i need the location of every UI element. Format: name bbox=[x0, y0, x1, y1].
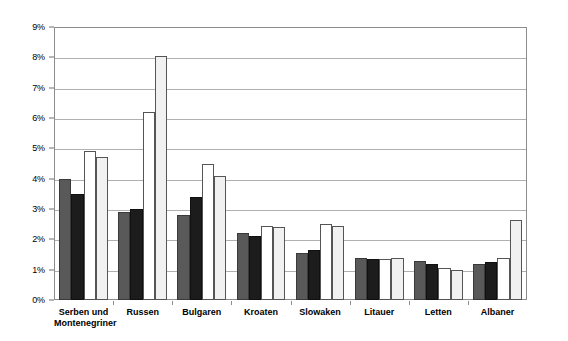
y-axis-tick-label: 4% bbox=[32, 174, 45, 184]
y-axis-tick-label: 9% bbox=[32, 22, 45, 32]
bar bbox=[118, 212, 130, 300]
x-axis-tick-mark bbox=[231, 301, 232, 305]
y-axis-tick-label: 1% bbox=[32, 265, 45, 275]
bar bbox=[414, 261, 426, 300]
y-axis-tick-label: 0% bbox=[32, 295, 45, 305]
x-axis-group-label: Bulgaren bbox=[172, 307, 231, 318]
bar bbox=[214, 176, 226, 300]
bar bbox=[130, 209, 142, 300]
x-axis-tick-mark bbox=[113, 301, 114, 305]
x-axis-tick-mark bbox=[468, 301, 469, 305]
bar bbox=[59, 179, 71, 300]
x-axis-tick-mark bbox=[291, 301, 292, 305]
y-axis-tick-label: 7% bbox=[32, 83, 45, 93]
x-axis-tick-mark bbox=[350, 301, 351, 305]
x-axis-group-label: Litauer bbox=[350, 307, 409, 318]
bar bbox=[332, 226, 344, 300]
bar bbox=[96, 157, 108, 300]
bar bbox=[143, 112, 155, 300]
bars-layer bbox=[54, 27, 527, 300]
bar bbox=[155, 56, 167, 300]
bar bbox=[510, 220, 522, 300]
bar bbox=[497, 258, 509, 300]
bar bbox=[71, 194, 83, 300]
bar bbox=[249, 236, 261, 300]
bar bbox=[190, 197, 202, 300]
y-axis: 0%1%2%3%4%5%6%7%8%9% bbox=[0, 0, 54, 341]
x-axis-group-label: Letten bbox=[409, 307, 468, 318]
x-axis-tick-mark bbox=[409, 301, 410, 305]
bar bbox=[451, 270, 463, 300]
y-axis-tick-label: 8% bbox=[32, 52, 45, 62]
x-axis-group-label: Slowaken bbox=[291, 307, 350, 318]
bar bbox=[367, 259, 379, 300]
x-axis-group-label: Serben und Montenegriner bbox=[54, 307, 113, 329]
bar-chart: 0%1%2%3%4%5%6%7%8%9% Serben und Monteneg… bbox=[0, 0, 568, 341]
bar bbox=[273, 227, 285, 300]
bar bbox=[355, 258, 367, 300]
bar bbox=[177, 215, 189, 300]
x-axis-tick-mark bbox=[172, 301, 173, 305]
bar bbox=[391, 258, 403, 300]
y-axis-tick-label: 5% bbox=[32, 143, 45, 153]
bar bbox=[296, 253, 308, 300]
y-axis-tick-label: 6% bbox=[32, 113, 45, 123]
bar bbox=[308, 250, 320, 300]
x-axis: Serben und MontenegrinerRussenBulgarenKr… bbox=[54, 301, 527, 341]
bar bbox=[84, 151, 96, 300]
bar bbox=[426, 264, 438, 300]
bar bbox=[379, 259, 391, 300]
bar bbox=[320, 224, 332, 300]
x-axis-group-label: Russen bbox=[113, 307, 172, 318]
bar bbox=[261, 226, 273, 300]
bar bbox=[202, 164, 214, 301]
x-axis-group-label: Albaner bbox=[468, 307, 527, 318]
x-axis-group-label: Kroaten bbox=[231, 307, 290, 318]
bar bbox=[237, 233, 249, 300]
bar bbox=[438, 268, 450, 300]
bar bbox=[473, 264, 485, 300]
bar bbox=[485, 262, 497, 300]
y-axis-tick-label: 3% bbox=[32, 204, 45, 214]
y-axis-tick-label: 2% bbox=[32, 234, 45, 244]
